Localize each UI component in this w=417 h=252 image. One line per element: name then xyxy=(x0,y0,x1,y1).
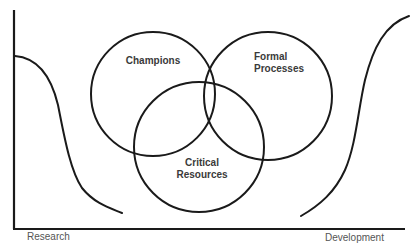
right-valley-curve xyxy=(301,16,409,216)
critical-resources-circle xyxy=(134,82,264,212)
formal-processes-label: Formal Processes xyxy=(254,51,304,75)
formal-processes-label-line-1: Formal xyxy=(254,51,304,63)
research-axis-label: Research xyxy=(27,231,70,242)
development-axis-label: Development xyxy=(325,232,384,243)
champions-label: Champions xyxy=(126,55,180,67)
formal-processes-label-line-2: Processes xyxy=(254,63,304,75)
champions-circle xyxy=(91,32,215,156)
valley-of-death-diagram xyxy=(0,0,417,252)
critical-resources-label: Critical Resources xyxy=(176,157,227,181)
critical-resources-label-line-2: Resources xyxy=(176,169,227,181)
champions-label-line: Champions xyxy=(126,55,180,67)
critical-resources-label-line-1: Critical xyxy=(176,157,227,169)
